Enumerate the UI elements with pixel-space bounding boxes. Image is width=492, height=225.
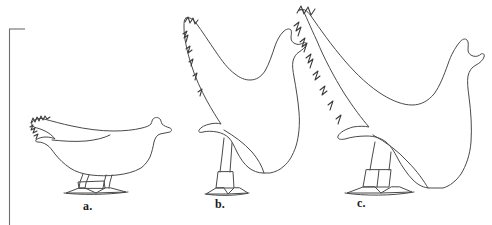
hen-a-shank-block xyxy=(78,181,105,188)
hen-a-left-leg xyxy=(79,174,83,188)
figure-label-c: c. xyxy=(357,196,366,211)
figure-label-b: b. xyxy=(215,197,225,212)
chicken-outlines-svg xyxy=(0,0,492,225)
hen-c-inner-shank-line xyxy=(377,170,379,187)
hen-a-body-outline xyxy=(32,118,172,176)
hen-b-left-foot xyxy=(206,188,228,194)
hen-b-right-foot xyxy=(228,188,248,194)
hen-a-right-foot xyxy=(96,188,126,193)
panel-a-drawing xyxy=(30,116,172,194)
hen-a-wing-line xyxy=(52,135,110,141)
hen-c-left-shank xyxy=(370,142,375,170)
hen-b-left-shank xyxy=(220,138,224,172)
hen-c-right-shank xyxy=(389,152,391,170)
panel-c-drawing xyxy=(294,6,484,195)
hen-a-right-leg xyxy=(109,175,112,188)
hen-b-shank-block xyxy=(216,172,234,188)
hen-a-left-foot xyxy=(66,188,96,193)
hen-c-tail-serration xyxy=(294,6,341,124)
hen-c-right-foot xyxy=(381,187,412,193)
hen-b-body-outline xyxy=(184,18,306,173)
frame-rule xyxy=(9,29,25,225)
hen-c-thigh-line xyxy=(373,135,428,188)
hen-c-body-outline xyxy=(299,9,484,188)
panel-b-drawing xyxy=(183,17,306,195)
hen-b-right-shank xyxy=(230,143,232,172)
figure-label-a: a. xyxy=(83,199,92,214)
figure-container: a. b. c. xyxy=(0,0,492,225)
hen-a-tail-serration xyxy=(30,116,50,139)
hen-c-left-foot xyxy=(347,187,381,193)
